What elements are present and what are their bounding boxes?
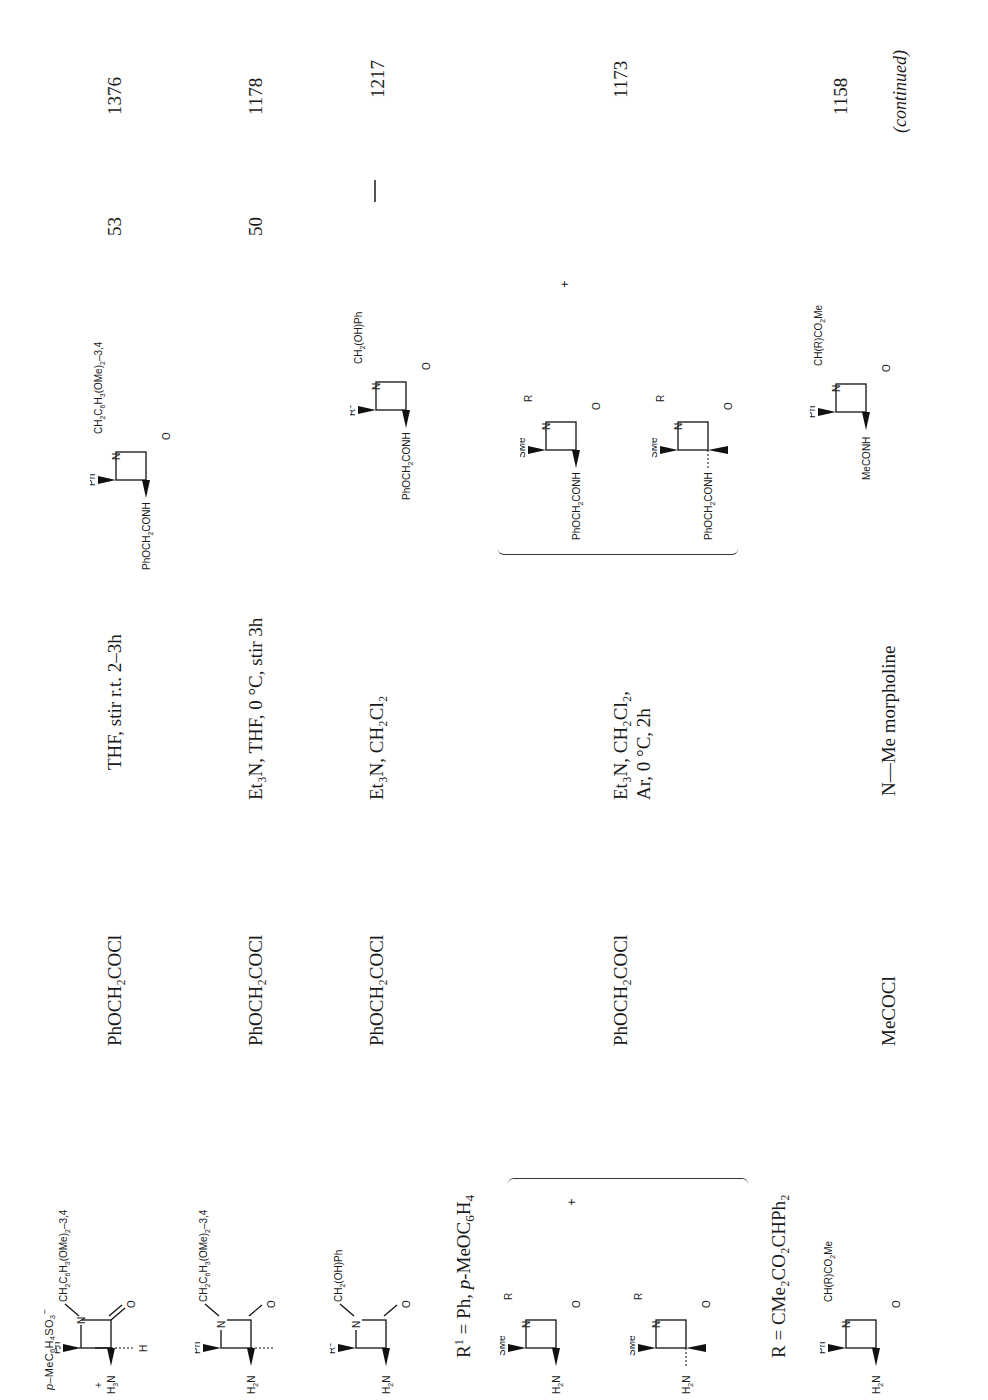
svg-text:CH2(OH)Ph: CH2(OH)Ph xyxy=(333,1250,346,1302)
svg-text:CH(R)CO2Me: CH(R)CO2Me xyxy=(823,1240,836,1302)
acid-chloride-row-1: PhOCH₂COCl xyxy=(104,935,126,1046)
ref-row-5: 1158 xyxy=(830,78,852,115)
svg-text:CH2C6H3(OMe)2–3,4: CH2C6H3(OMe)2–3,4 xyxy=(58,1209,71,1302)
svg-text:R: R xyxy=(523,395,534,402)
svg-text:PhOCH2CONH: PhOCH2CONH xyxy=(401,432,414,500)
acid-chloride-row-2: PhOCH₂COCl xyxy=(245,935,267,1046)
svg-text:O: O xyxy=(891,1300,902,1308)
svg-text:O: O xyxy=(266,1300,277,1308)
svg-text:O: O xyxy=(126,1300,137,1308)
svg-text:R1: R1 xyxy=(350,405,357,416)
product-mixture-plus: + xyxy=(557,280,572,288)
svg-text:PhOCH2CONH: PhOCH2CONH xyxy=(141,502,154,570)
svg-text:R1: R1 xyxy=(330,1343,337,1354)
amine-structure-row-4b: H2N N O SMe R xyxy=(630,1200,770,1400)
amine-structure-row-5: H2N N O Ph CH(R)CO2Me xyxy=(820,1200,980,1400)
acid-chloride-row-4: PhOCH₂COCl xyxy=(610,935,632,1046)
svg-text:+: + xyxy=(93,1382,104,1388)
svg-text:O: O xyxy=(881,364,892,372)
svg-text:O: O xyxy=(701,1300,712,1308)
amine-structure-row-4a: H2N N O SMe R xyxy=(500,1200,640,1400)
ref-row-3: 1217 xyxy=(367,60,389,98)
ref-row-4: 1173 xyxy=(610,61,632,98)
amine-mixture-plus: + xyxy=(564,1198,579,1206)
product-mixture-brace xyxy=(498,548,738,555)
amine-structure-row-3: H2N N O R1 CH2(OH)Ph xyxy=(330,1130,510,1400)
conditions-row-1: THF, stir r.t. 2–3h xyxy=(104,634,126,770)
rotated-table-page: 1376 1178 1217 1173 1158 (continued) 53 … xyxy=(0,0,988,1400)
svg-text:H2N: H2N xyxy=(871,1376,884,1394)
svg-text:N: N xyxy=(76,1317,87,1324)
continued-note: (continued) xyxy=(890,50,911,133)
svg-text:O: O xyxy=(161,432,172,440)
svg-text:Ph: Ph xyxy=(55,1342,62,1354)
product-structure-row-4b: PhOCH2CONH N O SMe R xyxy=(652,280,812,540)
svg-text:H2N: H2N xyxy=(681,1376,694,1394)
svg-text:R: R xyxy=(503,1293,514,1300)
svg-text:CH2C6H3(OMe)2–3,4: CH2C6H3(OMe)2–3,4 xyxy=(198,1209,211,1302)
svg-text:N: N xyxy=(831,385,842,392)
svg-text:H2N: H2N xyxy=(381,1376,394,1394)
svg-text:CH(R)CO2Me: CH(R)CO2Me xyxy=(813,304,826,366)
svg-text:N: N xyxy=(371,383,382,390)
svg-text:N: N xyxy=(841,1321,852,1328)
svg-text:H3N: H3N xyxy=(106,1376,119,1394)
svg-text:N: N xyxy=(111,453,122,460)
svg-text:SMe: SMe xyxy=(520,437,527,458)
svg-text:N: N xyxy=(651,1321,662,1328)
svg-text:N: N xyxy=(521,1321,532,1328)
acid-chloride-row-3: PhOCH₂COCl xyxy=(366,935,388,1046)
ref-row-2: 1178 xyxy=(245,78,267,115)
svg-text:Ph: Ph xyxy=(810,406,817,418)
svg-text:CH2C6H3(OMe)2–3,4: CH2C6H3(OMe)2–3,4 xyxy=(93,341,106,434)
amine-mixture-brace xyxy=(508,1178,748,1185)
conditions-row-5: N—Me morpholine xyxy=(878,646,900,796)
svg-text:CH2(OH)Ph: CH2(OH)Ph xyxy=(353,312,366,364)
svg-text:MeCONH: MeCONH xyxy=(861,437,872,480)
svg-text:PhOCH2CONH: PhOCH2CONH xyxy=(571,472,584,540)
yield-row-1: 53 xyxy=(104,217,126,236)
svg-text:R: R xyxy=(655,395,666,402)
svg-text:O: O xyxy=(723,402,734,410)
acid-chloride-row-5: MeCOCl xyxy=(878,976,900,1046)
yield-row-3-dash xyxy=(374,180,376,202)
conditions-row-4-line2: Ar, 0 °C, 2h xyxy=(633,708,655,800)
r-note: R = CMe₂CO₂CHPh₂ xyxy=(768,1194,790,1358)
svg-text:SMe: SMe xyxy=(652,437,659,458)
yield-row-2: 50 xyxy=(245,217,267,236)
conditions-row-4-line1: Et₃N, CH₂Cl₂, xyxy=(610,691,632,800)
svg-text:H2N: H2N xyxy=(551,1376,564,1394)
svg-text:R: R xyxy=(633,1293,644,1300)
conditions-row-2: Et₃N, THF, 0 °C, stir 3h xyxy=(245,618,267,800)
ref-row-1: 1376 xyxy=(104,77,126,115)
product-structure-row-5: MeCONH N O Ph CH(R)CO2Me xyxy=(810,250,980,490)
svg-text:PhOCH2CONH: PhOCH2CONH xyxy=(703,472,716,540)
svg-text:N: N xyxy=(541,423,552,430)
svg-text:Ph: Ph xyxy=(90,474,97,486)
svg-text:O: O xyxy=(571,1300,582,1308)
svg-text:O: O xyxy=(591,402,602,410)
conditions-row-3: Et₃N, CH₂Cl₂ xyxy=(366,696,388,800)
svg-text:Ph: Ph xyxy=(820,1342,827,1354)
svg-text:H2N: H2N xyxy=(246,1376,259,1394)
svg-text:Ph: Ph xyxy=(195,1342,202,1354)
product-structure-row-3: PhOCH2CONH N O R1 CH2(OH)Ph xyxy=(350,240,530,500)
svg-text:SMe: SMe xyxy=(630,1335,637,1356)
svg-text:H: H xyxy=(138,1345,149,1352)
svg-text:N: N xyxy=(351,1321,362,1328)
svg-text:O: O xyxy=(421,362,432,370)
svg-text:SMe: SMe xyxy=(500,1335,507,1356)
svg-text:N: N xyxy=(216,1321,227,1328)
svg-text:O: O xyxy=(401,1300,412,1308)
svg-text:N: N xyxy=(673,423,684,430)
product-structure-row-1: PhOCH2CONH N O Ph CH2C6H3(OMe)2–3,4 xyxy=(90,250,290,570)
